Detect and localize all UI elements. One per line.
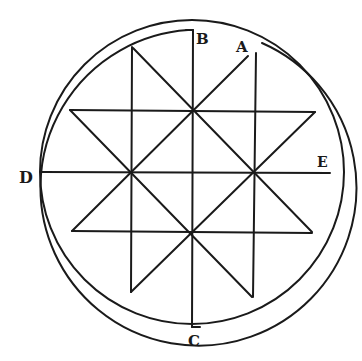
label-a: A [235, 38, 248, 56]
outer-arc [40, 30, 356, 346]
line-bc [192, 30, 193, 327]
geometric-figure: B A D E C [0, 0, 362, 361]
label-b: B [196, 30, 209, 48]
label-d: D [19, 168, 33, 187]
label-c: C [188, 332, 200, 350]
diagonal-3 [70, 110, 252, 297]
label-e: E [317, 154, 328, 170]
line-de [42, 172, 330, 173]
grid-vertical-left [131, 47, 132, 292]
